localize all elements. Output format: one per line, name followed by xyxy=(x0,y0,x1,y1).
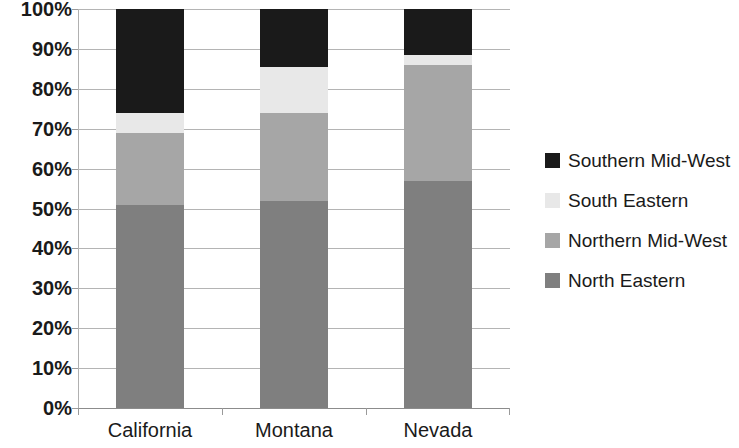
y-axis-tick-label: 100% xyxy=(2,0,72,19)
y-axis: 0%10%20%30%40%50%60%70%80%90%100% xyxy=(0,0,72,448)
bar-segment[interactable] xyxy=(116,113,184,133)
x-axis-separator xyxy=(78,408,79,415)
bar-stack[interactable] xyxy=(116,9,184,408)
bar-group[interactable] xyxy=(366,9,510,408)
bar-group[interactable] xyxy=(78,9,222,408)
chart-legend: Southern Mid-WestSouth EasternNorthern M… xyxy=(545,140,739,300)
x-axis-category-label: Nevada xyxy=(366,415,510,445)
gridline xyxy=(78,408,510,409)
y-axis-tick-label: 20% xyxy=(2,318,72,338)
stacked-bar-chart: 0%10%20%30%40%50%60%70%80%90%100% Califo… xyxy=(0,0,739,448)
bar-segment[interactable] xyxy=(260,201,328,408)
legend-label: Southern Mid-West xyxy=(568,151,730,170)
bar-segment[interactable] xyxy=(116,205,184,408)
bar-segment[interactable] xyxy=(404,65,472,181)
y-axis-tick-label: 50% xyxy=(2,199,72,219)
x-axis-separator xyxy=(222,408,223,415)
x-axis-category-label: California xyxy=(78,415,222,445)
legend-item[interactable]: Southern Mid-West xyxy=(545,140,739,180)
bar-group[interactable] xyxy=(222,9,366,408)
bar-stack[interactable] xyxy=(260,9,328,408)
legend-item[interactable]: North Eastern xyxy=(545,260,739,300)
legend-label: North Eastern xyxy=(568,271,685,290)
bar-segment[interactable] xyxy=(116,133,184,205)
legend-label: Northern Mid-West xyxy=(568,231,727,250)
y-axis-tick-label: 60% xyxy=(2,159,72,179)
legend-label: South Eastern xyxy=(568,191,688,210)
legend-swatch-icon xyxy=(545,153,560,168)
y-axis-tick-label: 10% xyxy=(2,358,72,378)
bar-segment[interactable] xyxy=(260,67,328,113)
bar-segment[interactable] xyxy=(260,9,328,67)
y-axis-tick-label: 90% xyxy=(2,39,72,59)
legend-swatch-icon xyxy=(545,193,560,208)
bar-stack[interactable] xyxy=(404,9,472,408)
x-axis-labels: CaliforniaMontanaNevada xyxy=(78,415,510,448)
x-axis-separator xyxy=(509,408,510,415)
bar-segment[interactable] xyxy=(404,181,472,408)
legend-item[interactable]: Northern Mid-West xyxy=(545,220,739,260)
bar-segment[interactable] xyxy=(404,9,472,55)
y-axis-tick-label: 0% xyxy=(2,398,72,418)
x-axis-category-label: Montana xyxy=(222,415,366,445)
y-axis-tick-label: 80% xyxy=(2,79,72,99)
legend-swatch-icon xyxy=(545,273,560,288)
x-axis-separator xyxy=(366,408,367,415)
y-axis-tick-label: 40% xyxy=(2,238,72,258)
bar-segment[interactable] xyxy=(260,113,328,201)
y-axis-tick-label: 70% xyxy=(2,119,72,139)
legend-item[interactable]: South Eastern xyxy=(545,180,739,220)
legend-swatch-icon xyxy=(545,233,560,248)
plot-area xyxy=(78,9,510,408)
bar-segment[interactable] xyxy=(116,9,184,113)
y-axis-tick-label: 30% xyxy=(2,278,72,298)
bar-segment[interactable] xyxy=(404,55,472,65)
